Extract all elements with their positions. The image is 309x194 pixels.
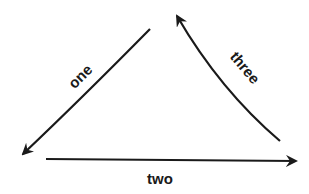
arrow-three-label: three xyxy=(227,48,264,87)
arrow-three: three xyxy=(177,16,280,141)
arrow-two: two xyxy=(46,159,296,187)
arrow-two-line xyxy=(46,159,296,161)
arrow-one: one xyxy=(23,29,150,154)
arrow-one-line xyxy=(23,29,150,154)
arrow-three-line xyxy=(177,16,280,141)
diagram-svg: one two three xyxy=(0,0,309,194)
arrow-two-label: two xyxy=(147,170,173,187)
cycle-diagram: one two three xyxy=(0,0,309,194)
